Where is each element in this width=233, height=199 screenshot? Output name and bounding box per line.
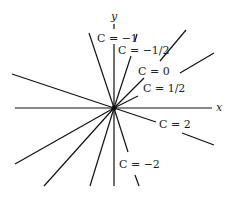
line-c-half-upper	[180, 53, 214, 73]
line-c-minus-1-tail	[135, 175, 139, 186]
label-c-half: C = 1/2	[143, 82, 185, 95]
label-c-zero: C = 0	[138, 65, 170, 78]
x-axis-label: x	[216, 101, 223, 114]
diagram: y x C = −1 C = −1/2 C = 0 C = 1/2 C = 2 …	[0, 0, 233, 199]
y-axis-label: y	[110, 10, 118, 23]
label-c-minus-half: C = −1/2	[118, 44, 170, 57]
line-c-minus-1-lower	[114, 108, 128, 152]
line-c-zero-lower	[44, 108, 114, 186]
label-c-2: C = 2	[159, 118, 191, 131]
line-c-2-mid	[114, 108, 156, 122]
origin-point	[112, 106, 117, 111]
line-c-2-lower	[182, 133, 214, 145]
label-c-minus-2: C = −2	[119, 158, 160, 171]
line-c-2-upper	[12, 74, 114, 108]
